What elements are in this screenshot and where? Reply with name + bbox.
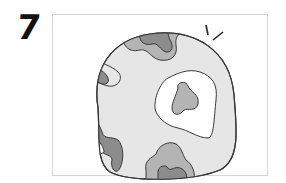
emphasis-tick-2 xyxy=(213,32,223,40)
emphasis-tick-1 xyxy=(206,25,208,35)
blob-illustration xyxy=(0,0,286,183)
